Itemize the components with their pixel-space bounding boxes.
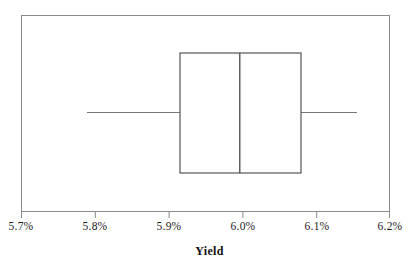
plot-canvas xyxy=(0,0,419,275)
x-tick-label-6-0: 6.0% xyxy=(203,219,283,233)
x-tick-label-5-8: 5.8% xyxy=(55,219,135,233)
x-tick-label-5-7: 5.7% xyxy=(0,219,61,233)
box-iqr xyxy=(180,53,301,173)
x-axis-ticks xyxy=(22,212,390,218)
x-tick-label-5-9: 5.9% xyxy=(129,219,209,233)
box-plot-figure: 5.7% 5.8% 5.9% 6.0% 6.1% 6.2% Yield xyxy=(0,0,419,275)
x-tick-label-6-2: 6.2% xyxy=(350,219,419,233)
x-axis-title: Yield xyxy=(0,244,419,259)
x-tick-label-6-1: 6.1% xyxy=(277,219,357,233)
